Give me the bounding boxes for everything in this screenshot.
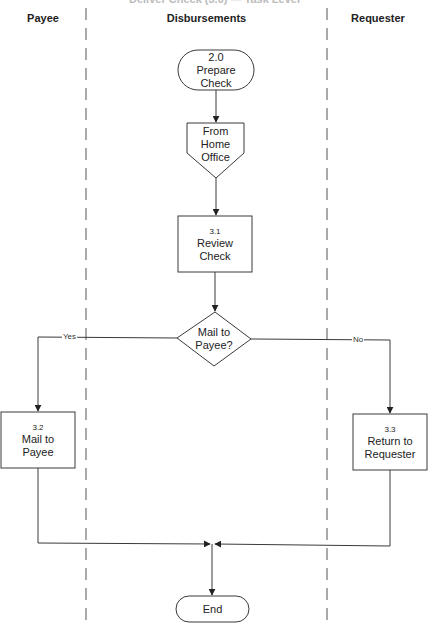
mail-line-1: Mail to: [22, 433, 54, 446]
return-line-2: Requester: [365, 448, 416, 461]
mail-number: 3.2: [32, 422, 43, 433]
mail-line-2: Payee: [22, 446, 53, 459]
end-label: End: [176, 596, 249, 622]
review-label: 3.1 Review Check: [178, 216, 252, 272]
start-line-2: Check: [200, 77, 231, 90]
mail-label: 3.2 Mail to Payee: [1, 412, 75, 468]
start-terminal-label: 2.0 Prepare Check: [178, 50, 254, 90]
connector-line-3: Office: [201, 151, 230, 164]
decision-line-1: Mail to: [198, 326, 230, 339]
end-text: End: [203, 603, 223, 616]
return-label: 3.3 Return to Requester: [353, 414, 427, 470]
start-line-1: Prepare: [196, 64, 235, 77]
lane-header-payee: Payee: [0, 12, 86, 24]
edge-yes-branch: [38, 337, 177, 411]
no-edge-label: No: [352, 335, 364, 344]
start-number: 2.0: [208, 51, 223, 64]
review-line-2: Check: [199, 250, 230, 263]
swimlane-flowchart: Deliver Check (3.0) — Task Level Payee D…: [0, 0, 429, 624]
lane-header-disbursements: Disbursements: [86, 12, 327, 24]
diagram-title: Deliver Check (3.0) — Task Level: [0, 0, 429, 5]
lane-header-requester: Requester: [327, 12, 429, 24]
decision-label: Mail to Payee?: [177, 312, 251, 366]
decision-line-2: Payee?: [195, 339, 232, 352]
connector-line-1: From: [203, 125, 229, 138]
return-number: 3.3: [384, 424, 395, 435]
return-line-1: Return to: [367, 435, 412, 448]
edge-no-branch: [251, 339, 390, 413]
review-line-1: Review: [197, 237, 233, 250]
edge-return-merge: [215, 470, 390, 546]
connector-label: From Home Office: [187, 124, 244, 164]
connector-line-2: Home: [201, 138, 230, 151]
review-number: 3.1: [209, 226, 220, 237]
edge-mail-merge: [38, 468, 210, 544]
yes-edge-label: Yes: [62, 332, 77, 341]
